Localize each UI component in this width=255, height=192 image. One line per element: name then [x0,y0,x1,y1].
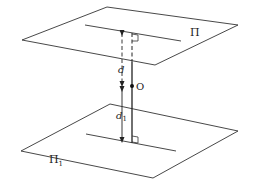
distance-d1-label-subscript: 1 [122,115,126,123]
right-angle-mark-upper [132,34,138,41]
lower-plane-label: Π1 [49,153,63,168]
point-o-label: O [136,81,144,92]
distance-d1-label: d1 [116,110,127,123]
upper-plane-line [85,25,181,41]
distance-d-label: d [118,64,124,75]
diagram-canvas: Π Π1 O d d1 [0,0,255,192]
lower-plane-label-main: Π [49,153,59,166]
planes-diagram: Π Π1 O d d1 [0,0,255,192]
point-o [130,84,134,88]
right-angle-mark-lower [132,136,138,143]
lower-plane-line [86,134,176,151]
lower-plane-label-subscript: 1 [59,160,63,168]
upper-plane-label: Π [190,26,200,39]
lower-plane [21,104,238,178]
upper-plane [22,7,238,65]
